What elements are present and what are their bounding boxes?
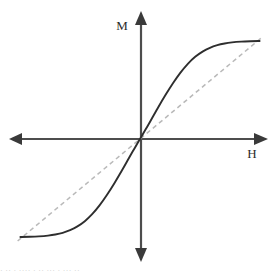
left-arrowhead-icon [9, 133, 22, 145]
axis-label-h: H [247, 146, 256, 161]
axis-label-m: M [116, 18, 128, 33]
figure-root: M H · ·· · ···· · ·· ··· · ··· ·· [0, 0, 280, 275]
axis-group [9, 11, 268, 262]
clipped-caption: · ·· · ···· · ·· ··· · ··· ·· [0, 266, 280, 275]
right-arrowhead-icon [254, 133, 268, 145]
magnetization-plot: M H [0, 0, 280, 275]
up-arrowhead-icon [135, 11, 147, 25]
down-arrowhead-icon [135, 248, 147, 262]
